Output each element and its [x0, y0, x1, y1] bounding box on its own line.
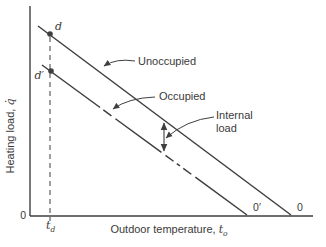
occupied-label: Occupied [159, 90, 205, 102]
design-temp-label: td [46, 219, 55, 234]
plot-lines-layer [30, 6, 313, 221]
internal-load-label-line1: Internal [216, 109, 253, 121]
heating-load-diagram: Heating load, q̇ Outdoor temperature, to… [0, 0, 326, 247]
x-axis-label-text: Outdoor temperature, [110, 223, 218, 235]
x-axis-symbol-subscript: o [223, 229, 228, 238]
point-d-prime-label: d′ [34, 69, 44, 82]
point-d-label: d [55, 20, 62, 33]
intercept-occupied-label: 0′ [253, 201, 261, 213]
plot-svg: Heating load, q̇ Outdoor temperature, to… [0, 0, 326, 247]
origin-label: 0 [20, 209, 26, 221]
x-axis-label: Outdoor temperature, to [110, 223, 228, 238]
unoccupied-label: Unoccupied [138, 55, 196, 67]
intercept-unoccupied-label: 0 [297, 201, 303, 213]
internal-load-label-line2: load [216, 122, 237, 134]
y-axis-symbol: q̇ [4, 99, 17, 106]
y-axis-label: Heating load, q̇ [4, 99, 17, 174]
y-axis-label-text: Heating load, [4, 106, 16, 174]
design-temp-subscript: d [50, 225, 55, 234]
